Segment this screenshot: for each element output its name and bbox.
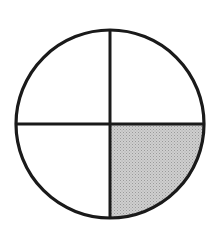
fraction-circle-diagram [0, 0, 219, 227]
